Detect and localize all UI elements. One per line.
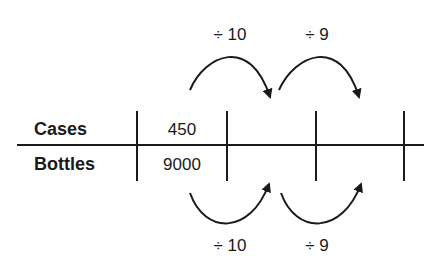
row-label-bottles: Bottles [34, 154, 95, 174]
bottom-arrow-1 [190, 184, 269, 223]
bottom-arrow-2 [281, 184, 361, 223]
row-label-cases: Cases [34, 119, 87, 139]
top-arrow-2 [279, 57, 359, 97]
cell-cases-col1: 450 [168, 120, 196, 139]
ratio-table-diagram: ÷ 10 ÷ 9 Cases Bottles 450 9000 ÷ 10 ÷ 9 [0, 0, 439, 262]
top-operation-label-2: ÷ 9 [305, 25, 329, 44]
bottom-operation-label-2: ÷ 9 [305, 236, 329, 255]
cell-bottles-col1: 9000 [163, 155, 201, 174]
bottom-operation-label-1: ÷ 10 [214, 236, 247, 255]
top-arrow-1 [190, 57, 270, 97]
top-operation-label-1: ÷ 10 [214, 25, 247, 44]
